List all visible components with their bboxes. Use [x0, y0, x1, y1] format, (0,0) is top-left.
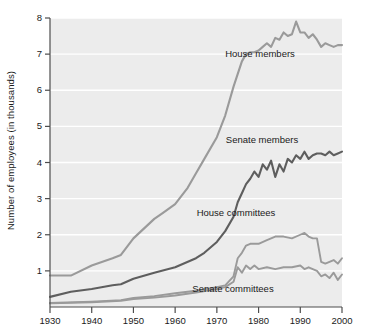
x-tick-label: 1980: [239, 315, 279, 326]
axis-ticks: [45, 18, 342, 313]
x-tick-label: 2000: [322, 315, 362, 326]
chart-canvas: [0, 0, 369, 328]
x-tick-label: 1940: [72, 315, 112, 326]
x-tick-label: 1990: [280, 315, 320, 326]
y-tick-label: 3: [22, 193, 42, 204]
series-label-house-committees: House committees: [197, 207, 276, 218]
x-tick-label: 1970: [197, 315, 237, 326]
series-label-house-members: House members: [225, 48, 295, 59]
y-tick-label: 1: [22, 265, 42, 276]
series-label-senate-committees: Senate committees: [192, 283, 273, 294]
y-tick-label: 8: [22, 12, 42, 23]
y-tick-label: 6: [22, 84, 42, 95]
x-tick-label: 1960: [155, 315, 195, 326]
chart-figure: Number of employees (in thousands) 87654…: [0, 0, 369, 328]
x-tick-label: 1950: [113, 315, 153, 326]
gridlines: [50, 18, 342, 271]
y-tick-label: 5: [22, 120, 42, 131]
x-tick-label: 1930: [30, 315, 70, 326]
y-tick-label: 4: [22, 157, 42, 168]
y-tick-label: 7: [22, 48, 42, 59]
series-label-senate-members: Senate members: [226, 134, 298, 145]
y-tick-label: 2: [22, 229, 42, 240]
series-line-house-members: [50, 22, 342, 276]
